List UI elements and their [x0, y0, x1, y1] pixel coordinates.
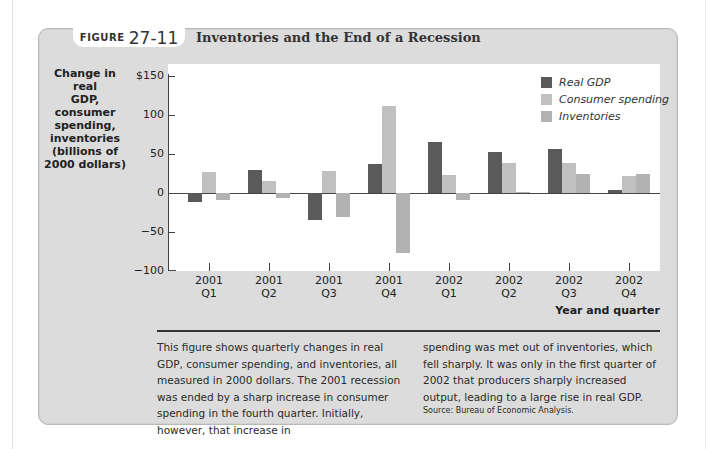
x-axis-category-label: 2001Q3: [304, 274, 354, 300]
x-axis-category-line: Q1: [184, 287, 234, 300]
real-gdp-bar: [368, 164, 382, 193]
x-axis-category-line: 2002: [424, 274, 474, 287]
legend-label: Inventories: [559, 110, 621, 123]
x-axis-category-label: 2001Q2: [244, 274, 294, 300]
figure-number: 27-11: [129, 28, 178, 48]
x-axis-tick: [209, 263, 210, 271]
legend-label: Real GDP: [559, 76, 610, 89]
x-axis-tick: [509, 263, 510, 271]
y-axis-tick: [169, 154, 175, 155]
y-axis-tick: [169, 232, 175, 233]
real-gdp-bar: [308, 193, 322, 220]
x-axis-category-label: 2001Q4: [364, 274, 414, 300]
page-edge-right: [705, 0, 706, 449]
x-axis-category-line: 2001: [304, 274, 354, 287]
y-axis-title-line: inventories: [44, 132, 126, 145]
x-axis-tick: [269, 263, 270, 271]
x-axis-category-line: 2002: [484, 274, 534, 287]
x-axis-category-line: Q2: [244, 287, 294, 300]
x-axis-tick: [449, 263, 450, 271]
y-axis-line: [168, 74, 169, 271]
x-axis-category-line: 2001: [184, 274, 234, 287]
legend-item: Real GDP: [541, 74, 669, 91]
caption-column-1: This figure shows quarterly changes in r…: [157, 339, 407, 438]
x-axis-category-line: Q4: [604, 287, 654, 300]
page-edge-left: [12, 0, 13, 449]
x-axis-category-line: Q2: [484, 287, 534, 300]
caption-divider: [157, 330, 660, 332]
consumer-spending-bar: [622, 176, 636, 193]
x-axis-category-line: Q3: [544, 287, 594, 300]
inventories-bar: [456, 193, 470, 200]
y-axis-tick-label: $150: [114, 70, 164, 82]
legend-swatch-icon: [541, 111, 552, 122]
x-axis-category-line: 2002: [544, 274, 594, 287]
x-axis-tick: [629, 263, 630, 271]
x-axis-category-label: 2002Q1: [424, 274, 474, 300]
figure-title: Inventories and the End of a Recession: [196, 30, 481, 45]
x-axis-category-label: 2002Q2: [484, 274, 534, 300]
consumer-spending-bar: [382, 106, 396, 193]
legend-item: Consumer spending: [541, 91, 669, 108]
y-axis-tick-label: −100: [114, 265, 164, 277]
y-axis-tick-label: 50: [114, 148, 164, 160]
x-axis-category-line: 2001: [364, 274, 414, 287]
inventories-bar: [276, 193, 290, 198]
x-axis-category-line: Q3: [304, 287, 354, 300]
real-gdp-bar: [428, 142, 442, 193]
x-axis-category-label: 2002Q4: [604, 274, 654, 300]
y-axis-tick-label: 0: [114, 187, 164, 199]
source-note: Source: Bureau of Economic Analysis.: [423, 405, 663, 417]
x-axis-title: Year and quarter: [555, 304, 660, 317]
real-gdp-bar: [488, 152, 502, 193]
consumer-spending-bar: [502, 163, 516, 193]
consumer-spending-bar: [322, 171, 336, 193]
legend-swatch-icon: [541, 77, 552, 88]
caption-column-2-text: spending was met out of inventories, whi…: [423, 339, 663, 405]
x-axis-tick: [569, 263, 570, 271]
x-axis-tick: [329, 263, 330, 271]
real-gdp-bar: [248, 170, 262, 193]
figure-word: FIGURE: [80, 32, 125, 43]
y-axis-tick: [169, 115, 175, 116]
consumer-spending-bar: [262, 181, 276, 193]
x-axis-category-line: 2002: [604, 274, 654, 287]
inventories-bar: [396, 193, 410, 253]
y-axis-tick-label: 100: [114, 109, 164, 121]
y-axis-tick-label: −50: [114, 226, 164, 238]
inventories-bar: [576, 174, 590, 193]
y-axis-tick: [169, 76, 175, 77]
legend-item: Inventories: [541, 108, 669, 125]
y-axis-bottom-corner: [168, 270, 176, 271]
inventories-bar: [336, 193, 350, 217]
x-axis-category-line: Q1: [424, 287, 474, 300]
x-axis-category-label: 2002Q3: [544, 274, 594, 300]
x-axis-category-label: 2001Q1: [184, 274, 234, 300]
zero-baseline: [168, 193, 660, 194]
figure-label-tab: FIGURE 27-11: [73, 28, 185, 47]
consumer-spending-bar: [202, 172, 216, 193]
legend-swatch-icon: [541, 94, 552, 105]
consumer-spending-bar: [442, 175, 456, 193]
x-axis-category-line: 2001: [244, 274, 294, 287]
legend-label: Consumer spending: [559, 93, 669, 106]
real-gdp-bar: [188, 193, 202, 202]
real-gdp-bar: [548, 149, 562, 193]
x-axis-tick: [389, 263, 390, 271]
x-axis-category-line: Q4: [364, 287, 414, 300]
consumer-spending-bar: [562, 163, 576, 193]
inventories-bar: [216, 193, 230, 200]
inventories-bar: [516, 192, 530, 193]
caption-column-2: spending was met out of inventories, whi…: [423, 339, 663, 417]
legend: Real GDPConsumer spendingInventories: [541, 74, 669, 125]
real-gdp-bar: [608, 190, 622, 193]
inventories-bar: [636, 174, 650, 193]
